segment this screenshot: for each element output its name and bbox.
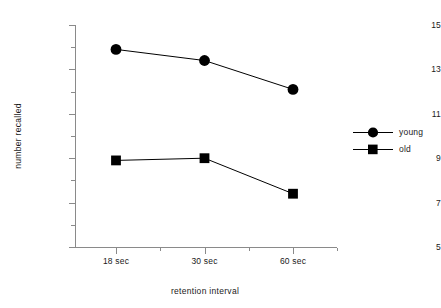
- legend-item-old[interactable]: old: [352, 141, 438, 158]
- legend-item-young[interactable]: young: [352, 124, 438, 141]
- data-point-square[interactable]: [200, 153, 210, 163]
- square-marker-icon: [352, 141, 394, 158]
- legend-label-old: old: [399, 144, 411, 154]
- circle-marker-icon: [352, 124, 394, 141]
- series-old: [111, 153, 298, 198]
- series-line: [116, 158, 293, 194]
- line-chart-figure: 579111315 18 sec30 sec60 sec number reca…: [0, 0, 441, 308]
- chart-legend: young old: [352, 124, 438, 158]
- data-point-circle[interactable]: [288, 84, 299, 95]
- data-point-circle[interactable]: [111, 44, 122, 55]
- data-point-circle[interactable]: [199, 55, 210, 66]
- data-point-square[interactable]: [288, 189, 298, 199]
- y-axis-title: number recalled: [13, 103, 23, 168]
- legend-label-young: young: [399, 127, 423, 137]
- x-axis-title: retention interval: [0, 286, 410, 296]
- data-point-square[interactable]: [111, 156, 121, 166]
- series-young: [111, 44, 299, 95]
